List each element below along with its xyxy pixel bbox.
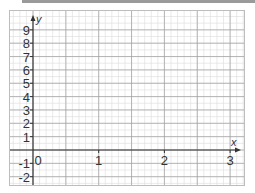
coordinate-plane: xy987654321-1-20123: [0, 0, 255, 193]
y-tick-label: -2: [18, 170, 30, 185]
x-tick-label: 2: [161, 153, 168, 168]
x-tick-label: 0: [34, 153, 41, 168]
y-axis-arrow-icon: [31, 15, 36, 21]
x-axis-label: x: [230, 136, 237, 148]
y-tick-label: 1: [23, 130, 30, 145]
x-axis-arrow-icon: [235, 148, 241, 153]
x-tick-label: 3: [226, 153, 233, 168]
x-tick-label: 1: [95, 153, 102, 168]
